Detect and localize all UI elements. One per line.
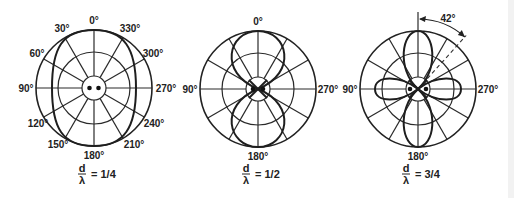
angle-label: 90°	[342, 84, 357, 95]
angle-label: 90°	[18, 83, 33, 94]
spoke-line	[389, 99, 412, 139]
angle-label: 240°	[144, 118, 165, 129]
polar-diagram-three-quarter: 42°90°270°180°dλ= 3/4	[342, 12, 498, 186]
angle-annotation-label: 42°	[440, 13, 455, 24]
antenna-element-dot	[87, 86, 92, 91]
ratio-denominator: λ	[403, 174, 409, 186]
ratio-numerator: d	[403, 162, 410, 174]
ratio-denominator: λ	[79, 174, 85, 186]
angle-label: 120°	[28, 118, 49, 129]
angle-label: 270°	[156, 83, 177, 94]
angle-label: 0°	[89, 15, 99, 26]
spoke-line	[424, 39, 447, 79]
arrowhead-icon	[419, 16, 426, 22]
spoke-line	[44, 59, 84, 82]
angle-label: 90°	[182, 84, 197, 95]
angle-label: 210°	[124, 139, 145, 150]
spoke-line	[44, 94, 84, 117]
angle-label: 30°	[54, 23, 69, 34]
angle-label: 270°	[478, 84, 499, 95]
angle-label: 330°	[120, 23, 141, 34]
angle-label: 180°	[84, 150, 105, 161]
spoke-line	[100, 38, 123, 78]
ratio-numerator: d	[243, 162, 250, 174]
antenna-element-dot	[424, 87, 429, 92]
angle-label: 180°	[408, 151, 429, 162]
ratio-value: = 3/4	[415, 168, 441, 180]
spoke-line	[65, 38, 88, 78]
ratio-value: = 1/2	[255, 168, 280, 180]
antenna-element-dot	[251, 87, 256, 92]
antenna-element-dot	[408, 87, 413, 92]
angle-label: 60°	[29, 48, 44, 59]
ratio-value: = 1/4	[91, 168, 117, 180]
spoke-line	[104, 94, 144, 117]
spoke-line	[424, 99, 447, 139]
spoke-line	[389, 39, 412, 79]
arrowhead-icon	[458, 30, 465, 37]
ratio-denominator: λ	[243, 174, 249, 186]
ratio-numerator: d	[79, 162, 86, 174]
inner-circle	[82, 76, 106, 100]
polar-diagram-quarter: 0°30°330°60°300°90°270°120°240°150°210°1…	[18, 15, 176, 186]
polar-diagram-half: 0°90°270°180°dλ= 1/2	[182, 16, 338, 186]
angle-label: 0°	[253, 16, 263, 27]
spoke-line	[65, 98, 88, 138]
angle-label: 180°	[248, 151, 269, 162]
angle-label: 300°	[143, 48, 164, 59]
radiation-pattern-figure: 0°30°330°60°300°90°270°120°240°150°210°1…	[0, 0, 514, 198]
spoke-line	[104, 59, 144, 82]
angle-label: 270°	[318, 84, 339, 95]
antenna-element-dot	[96, 86, 101, 91]
angle-label: 150°	[48, 139, 69, 150]
spoke-line	[100, 98, 123, 138]
antenna-element-dot	[261, 87, 266, 92]
